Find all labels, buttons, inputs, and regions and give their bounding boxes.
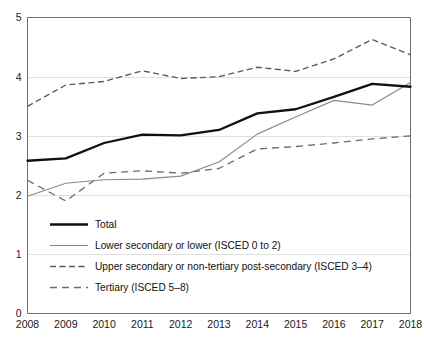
y-tick-label: 5: [16, 11, 22, 23]
gridlines: [28, 78, 411, 255]
y-tick-label: 2: [16, 189, 22, 201]
y-tick-label: 4: [16, 71, 22, 83]
legend-label-lower-secondary: Lower secondary or lower (ISCED 0 to 2): [95, 240, 281, 251]
legend-label-upper-secondary: Upper secondary or non-tertiary post-sec…: [95, 261, 372, 272]
legend-label-total: Total: [95, 219, 117, 230]
y-tick-label: 3: [16, 130, 22, 142]
x-tick-label: 2009: [54, 318, 78, 330]
line-chart: 012345 200820092010201120122013201420152…: [0, 0, 424, 354]
x-tick-label: 2016: [322, 318, 346, 330]
legend: Total Lower secondary or lower (ISCED 0 …: [50, 219, 372, 293]
series-line-tertiary: [28, 136, 411, 201]
chart-container: 012345 200820092010201120122013201420152…: [0, 0, 424, 354]
series-line-total: [28, 84, 411, 161]
x-tick-label: 2012: [169, 318, 193, 330]
series-line-upper-secondary: [28, 39, 411, 106]
legend-label-tertiary: Tertiary (ISCED 5–8): [95, 282, 189, 293]
x-tick-label: 2011: [131, 318, 154, 330]
x-tick-label: 2013: [207, 318, 231, 330]
x-tick-label: 2018: [399, 318, 423, 330]
x-tick-label: 2014: [246, 318, 270, 330]
y-axis-tick-labels: 012345: [16, 11, 22, 319]
x-tick-label: 2017: [361, 318, 385, 330]
x-tick-label: 2015: [284, 318, 308, 330]
x-tick-label: 2010: [92, 318, 116, 330]
series-line-lower-secondary: [28, 83, 411, 197]
x-tick-label: 2008: [16, 318, 40, 330]
x-axis-tick-labels: 2008200920102011201220132014201520162017…: [16, 318, 423, 330]
y-tick-label: 1: [16, 248, 22, 260]
